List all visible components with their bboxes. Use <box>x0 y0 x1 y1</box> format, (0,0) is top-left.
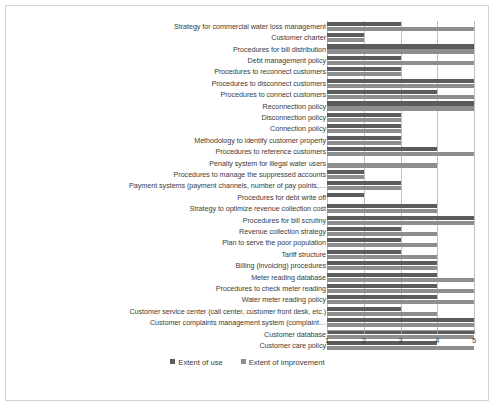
category-label: Procedures to reference customers <box>215 148 326 156</box>
chart-legend: Extent of useExtent of improvement <box>0 357 495 367</box>
bar-row: Customer service center (call center, cu… <box>0 306 495 317</box>
bar-pair <box>327 67 474 78</box>
bar-extent-of-use <box>327 136 401 140</box>
bar-extent-of-improvement <box>327 72 401 76</box>
bar-pair <box>327 21 474 32</box>
bar-pair <box>327 44 474 55</box>
bar-row: Penalty system for illegal water users <box>0 158 495 169</box>
bar-pair <box>327 89 474 100</box>
bar-extent-of-use <box>327 341 437 345</box>
bar-pair <box>327 169 474 180</box>
category-label: Procedures to check meter reading <box>216 285 326 293</box>
bar-row: Water meter reading policy <box>0 295 495 306</box>
bar-row: Customer complaints management system (c… <box>0 318 495 329</box>
bar-extent-of-improvement <box>327 38 364 42</box>
bar-extent-of-use <box>327 79 474 83</box>
bar-row: Debt management policy <box>0 55 495 66</box>
bar-extent-of-use <box>327 44 474 48</box>
bar-extent-of-use <box>327 307 401 311</box>
category-label: Customer charter <box>271 34 326 42</box>
category-label: Reconnection policy <box>263 103 326 111</box>
bar-pair <box>327 55 474 66</box>
category-label: Procedures for bill distribution <box>233 46 326 54</box>
legend-label: Extent of improvement <box>249 358 325 367</box>
bar-extent-of-improvement <box>327 106 474 110</box>
category-label: Disconnection policy <box>261 114 326 122</box>
bar-row: Payment systems (payment channels, numbe… <box>0 181 495 192</box>
category-label: Debt management policy <box>248 57 326 65</box>
category-label: Plan to serve the poor population <box>222 239 326 247</box>
tick-mark <box>437 330 438 334</box>
bar-extent-of-use <box>327 90 437 94</box>
plot-area: Strategy for commercial water loss manag… <box>0 0 495 407</box>
bar-row: Disconnection policy <box>0 112 495 123</box>
bar-extent-of-improvement <box>327 186 401 190</box>
bar-row: Tariff structure <box>0 249 495 260</box>
bar-extent-of-improvement <box>327 300 474 304</box>
bar-pair <box>327 226 474 237</box>
bar-extent-of-improvement <box>327 175 364 179</box>
legend-item: Extent of use <box>170 357 222 367</box>
bar-extent-of-use <box>327 147 437 151</box>
category-label: Procedures to connect customers <box>220 91 326 99</box>
category-label: Customer complaints management system (c… <box>150 319 326 327</box>
legend-swatch-icon <box>241 359 246 364</box>
bar-extent-of-improvement <box>327 289 474 293</box>
bar-row: Meter reading database <box>0 272 495 283</box>
bar-row: Billing (invoicing) procedures <box>0 261 495 272</box>
bar-extent-of-improvement <box>327 312 437 316</box>
category-label: Billing (invoicing) procedures <box>236 262 326 270</box>
bar-pair <box>327 295 474 306</box>
bar-row: Procedures to manage the suppressed acco… <box>0 169 495 180</box>
bar-extent-of-improvement <box>327 118 401 122</box>
bar-pair <box>327 192 474 203</box>
bar-row: Procedures for bill scrutiny <box>0 215 495 226</box>
bar-extent-of-use <box>327 261 437 265</box>
bar-extent-of-improvement <box>327 129 401 133</box>
category-label: Procedures to manage the suppressed acco… <box>174 171 326 179</box>
bar-pair <box>327 272 474 283</box>
bar-extent-of-use <box>327 181 401 185</box>
bar-extent-of-use <box>327 124 401 128</box>
tick-mark <box>401 330 402 334</box>
bar-pair <box>327 78 474 89</box>
bar-row: Strategy for commercial water loss manag… <box>0 21 495 32</box>
bar-pair <box>327 32 474 43</box>
bar-row: Plan to serve the poor population <box>0 238 495 249</box>
bar-extent-of-improvement <box>327 95 474 99</box>
bar-pair <box>327 146 474 157</box>
category-label: Penalty system for illegal water users <box>209 160 326 168</box>
bar-row: Customer charter <box>0 32 495 43</box>
bar-pair <box>327 124 474 135</box>
bar-pair <box>327 158 474 169</box>
bar-extent-of-use <box>327 33 364 37</box>
bar-pair <box>327 249 474 260</box>
bar-extent-of-use <box>327 250 401 254</box>
bar-extent-of-use <box>327 204 437 208</box>
x-tick-label: 5 <box>472 336 476 345</box>
category-label: Customer database <box>264 331 326 339</box>
bar-extent-of-use <box>327 238 401 242</box>
bar-pair <box>327 215 474 226</box>
bar-pair <box>327 261 474 272</box>
legend-swatch-icon <box>170 359 175 364</box>
bar-row: Reconnection policy <box>0 101 495 112</box>
legend-item: Extent of improvement <box>241 357 325 367</box>
bar-row: Procedures to check meter reading <box>0 283 495 294</box>
bar-extent-of-improvement <box>327 49 474 53</box>
bar-extent-of-use <box>327 101 474 105</box>
bar-extent-of-use <box>327 193 364 197</box>
bar-extent-of-improvement <box>327 232 437 236</box>
bar-extent-of-use <box>327 216 474 220</box>
category-label: Revenue collection strategy <box>239 228 326 236</box>
bar-row: Revenue collection strategy <box>0 226 495 237</box>
x-tick-label: 3 <box>398 336 402 345</box>
legend-label: Extent of use <box>178 358 222 367</box>
bar-extent-of-improvement <box>327 221 474 225</box>
category-label: Customer care policy <box>259 342 326 350</box>
category-label: Tariff structure <box>281 251 326 259</box>
bar-extent-of-improvement <box>327 255 437 259</box>
bar-row: Methodology to identify customer propert… <box>0 135 495 146</box>
x-tick-label: 2 <box>362 336 366 345</box>
bar-pair <box>327 181 474 192</box>
